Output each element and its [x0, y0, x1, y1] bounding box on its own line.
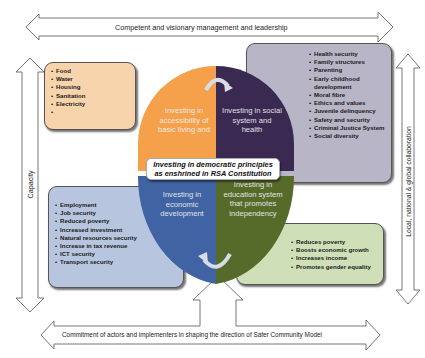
right-arrow-label: Local, national & global collaboration: [405, 122, 412, 242]
center-principles-label: Investing in democratic principles as en…: [146, 158, 280, 180]
quadrant-top-left-label: Investing in accessibility of basic livi…: [152, 106, 216, 135]
list-item: Early childhood development: [309, 75, 385, 91]
quadrant-bottom-right-label: Investing in education system that promo…: [222, 180, 284, 218]
list-item: Increases income: [291, 254, 379, 262]
list-item: Family structures: [309, 58, 385, 66]
list-item: Social diversity: [309, 132, 385, 140]
list-item: Moral fibre: [309, 91, 385, 99]
list-item: Sanitation: [51, 92, 129, 100]
center-line-2: as enshrined in RSA Constitution: [147, 169, 279, 178]
list-item: Health security: [309, 50, 385, 58]
list-item: Reduces poverty: [291, 238, 379, 246]
list-item: Juvenile delinquency: [309, 107, 385, 115]
center-line-1: Investing in democratic principles: [147, 160, 279, 169]
list-item: Housing: [51, 83, 129, 91]
left-arrow-label: Capacity: [26, 163, 35, 207]
list-item: Safety and security: [309, 116, 385, 124]
list-item: Electricity: [51, 100, 129, 108]
list-item: [51, 108, 129, 116]
quadrant-bottom-left-label: Investing in economic development: [152, 190, 212, 219]
list-item: Criminal Justice System: [309, 124, 385, 132]
basic-living-box: Food Water Housing Sanitation Electricit…: [44, 62, 136, 130]
list-item: Water: [51, 75, 129, 83]
list-item: Food: [51, 67, 129, 75]
list-item: Ethics and values: [309, 99, 385, 107]
bottom-arrow-label: Commitment of actors and implementers in…: [62, 331, 322, 338]
list-item: Promotes gender equality: [291, 263, 379, 271]
list-item: Boosts economic growth: [291, 246, 379, 254]
quadrant-top-right-label: Investing in social system and health: [222, 106, 282, 135]
top-arrow-label: Competent and visionary management and l…: [115, 23, 288, 32]
list-item: Parenting: [309, 66, 385, 74]
